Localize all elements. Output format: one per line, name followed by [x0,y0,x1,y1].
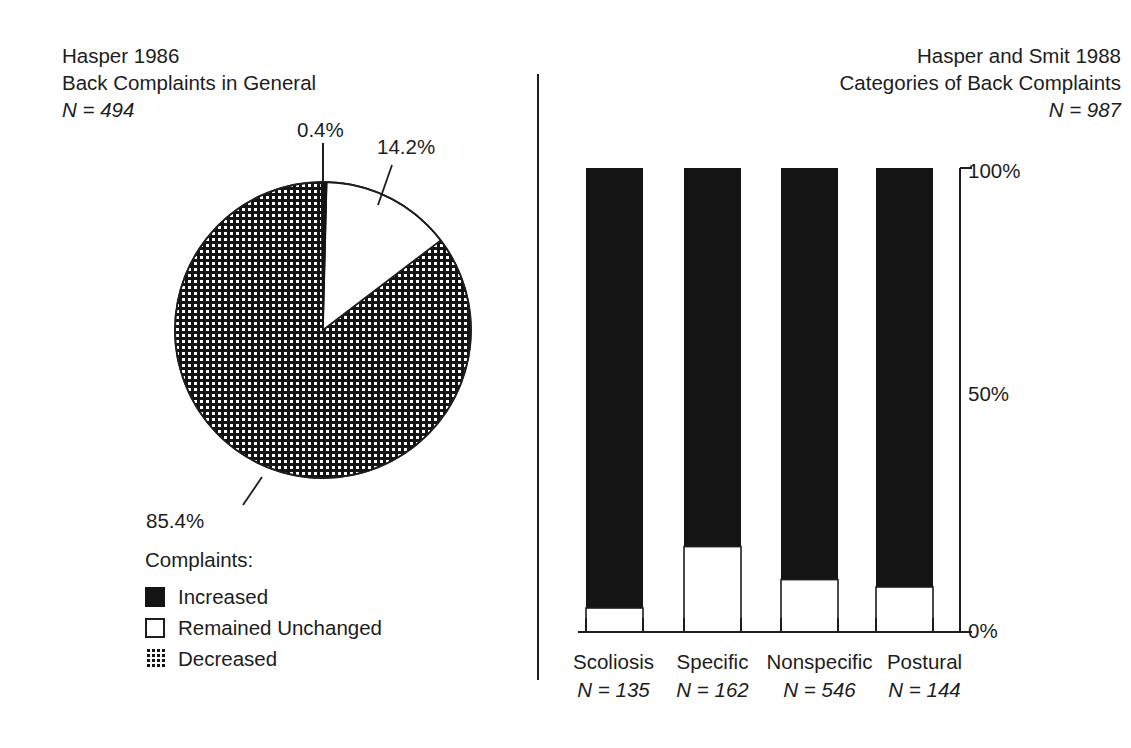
bar-segment-increased-scoliosis [586,168,643,608]
left-title-line2: Back Complaints in General [62,69,316,96]
bar-group-nonspecific [781,168,838,632]
legend-item-remained-unchanged: Remained Unchanged [145,612,382,643]
bar-segment-increased-specific [684,168,741,547]
left-title-line1: Hasper 1986 [62,42,316,69]
pie-label-decreased: 85.4% [146,509,204,533]
legend-swatch-increased [145,587,165,607]
category-name-postural: Postural [872,648,977,676]
right-title-sample-size: N = 987 [840,96,1121,123]
bar-group-specific [684,168,741,632]
left-title-sample-size: N = 494 [62,96,316,123]
legend-swatch-remained-unchanged [145,618,165,638]
category-label-specific: Specific N = 162 [660,648,765,704]
panel-divider [537,74,539,680]
category-name-nonspecific: Nonspecific [752,648,887,676]
pie-chart-svg [170,160,480,505]
legend: Complaints: Increased Remained Unchanged… [145,548,382,674]
bar-segment-increased-postural [876,168,933,587]
right-title-line2: Categories of Back Complaints [840,69,1121,96]
category-count-scoliosis: N = 135 [556,676,671,704]
bar-segment-unchanged-specific [684,547,741,632]
y-axis-label-50: 50% [968,382,1009,406]
legend-item-decreased: Decreased [145,643,382,674]
bar-group-scoliosis [586,168,643,632]
bar-segment-unchanged-nonspecific [781,580,838,632]
left-panel-title: Hasper 1986 Back Complaints in General N… [62,42,316,123]
category-label-scoliosis: Scoliosis N = 135 [556,648,671,704]
category-label-postural: Postural N = 144 [872,648,977,704]
pie-chart [170,160,480,505]
legend-title: Complaints: [145,548,382,572]
right-panel-title: Hasper and Smit 1988 Categories of Back … [840,42,1121,123]
pie-label-increased: 0.4% [297,118,344,142]
category-count-nonspecific: N = 546 [752,676,887,704]
legend-label-decreased: Decreased [178,647,277,671]
right-title-line1: Hasper and Smit 1988 [840,42,1121,69]
legend-label-increased: Increased [178,585,268,609]
bar-group-postural [876,168,933,632]
figure-root: Hasper 1986 Back Complaints in General N… [0,0,1131,748]
y-axis-label-100: 100% [968,159,1020,183]
bar-segment-unchanged-scoliosis [586,608,643,632]
category-count-postural: N = 144 [872,676,977,704]
legend-swatch-decreased [145,649,165,669]
bar-chart-svg [560,150,1120,710]
bar-segment-increased-nonspecific [781,168,838,580]
bar-segment-unchanged-postural [876,587,933,632]
y-axis-label-0: 0% [968,619,998,643]
legend-item-increased: Increased [145,581,382,612]
leader-line-increased [322,143,324,183]
legend-label-remained-unchanged: Remained Unchanged [178,616,382,640]
category-name-scoliosis: Scoliosis [556,648,671,676]
category-count-specific: N = 162 [660,676,765,704]
category-name-specific: Specific [660,648,765,676]
pie-label-remained-unchanged: 14.2% [377,135,435,159]
category-label-nonspecific: Nonspecific N = 546 [752,648,887,704]
bar-chart [560,150,1120,710]
